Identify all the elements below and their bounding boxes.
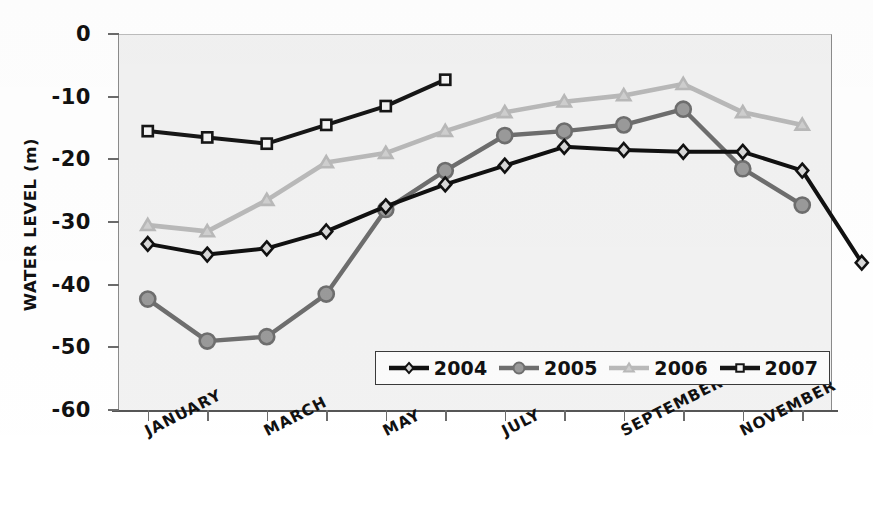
data-point-2004 — [856, 256, 868, 270]
x-tick — [564, 410, 566, 421]
y-tick — [108, 346, 119, 348]
legend-label-2006: 2006 — [654, 357, 708, 379]
legend-swatch-2007 — [718, 360, 762, 376]
legend-marker — [404, 363, 413, 373]
legend-label-2007: 2007 — [765, 357, 819, 379]
y-tick-label: -10 — [52, 85, 91, 109]
legend-item-2004[interactable]: 2004 — [387, 357, 488, 379]
legend-marker — [624, 363, 634, 371]
legend-swatch-2004 — [387, 360, 431, 376]
x-tick — [802, 410, 804, 421]
legend-marker — [736, 364, 743, 371]
legend: 2004 2005 2006 2007 — [375, 351, 830, 385]
y-tick-label: -60 — [52, 398, 91, 422]
y-axis-title: WATER LEVEL (m) — [21, 75, 40, 375]
y-tick — [108, 284, 119, 286]
x-tick — [207, 410, 209, 421]
legend-item-2006[interactable]: 2006 — [607, 357, 708, 379]
legend-swatch-2006 — [607, 360, 651, 376]
y-tick — [108, 33, 119, 35]
y-tick-label: -50 — [52, 335, 91, 359]
y-tick — [108, 158, 119, 160]
x-tick — [326, 410, 328, 421]
legend-label-2004: 2004 — [434, 357, 488, 379]
y-tick-label: -20 — [52, 147, 91, 171]
legend-label-2005: 2005 — [544, 357, 598, 379]
legend-item-2005[interactable]: 2005 — [497, 357, 598, 379]
x-axis-line — [112, 410, 838, 412]
legend-swatch-2005 — [497, 360, 541, 376]
y-tick — [108, 96, 119, 98]
y-tick — [108, 221, 119, 223]
y-tick-label: 0 — [76, 22, 91, 46]
y-tick — [108, 409, 119, 411]
y-tick-label: -30 — [52, 210, 91, 234]
line-chart: WATER LEVEL (m) 0-10-20-30-40-50-60 JANU… — [0, 0, 873, 522]
legend-marker — [514, 363, 525, 374]
y-tick-label: -40 — [52, 273, 91, 297]
x-tick — [683, 410, 685, 421]
legend-item-2007[interactable]: 2007 — [718, 357, 819, 379]
x-tick — [445, 410, 447, 421]
